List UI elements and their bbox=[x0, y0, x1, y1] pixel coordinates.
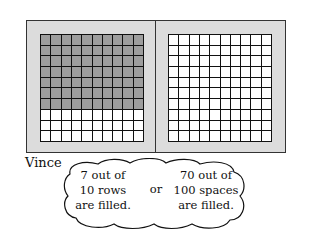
grid-cell bbox=[251, 78, 260, 88]
grid-cell bbox=[103, 67, 112, 77]
left-panel bbox=[26, 20, 156, 153]
grid-cell bbox=[231, 88, 240, 98]
grid-cell bbox=[210, 46, 219, 56]
grid-cell bbox=[241, 35, 250, 45]
grid-cell bbox=[200, 131, 209, 141]
right-panel bbox=[155, 20, 286, 153]
grid-cell bbox=[82, 99, 91, 109]
grid-cell bbox=[123, 67, 132, 77]
right-statement: 70 out of 100 spaces are filled. bbox=[170, 168, 242, 213]
left-hundred-grid bbox=[40, 34, 144, 142]
grid-cell bbox=[113, 35, 122, 45]
grid-cell bbox=[190, 121, 199, 131]
grid-cell bbox=[51, 78, 60, 88]
grid-cell bbox=[262, 110, 271, 120]
grid-cell bbox=[123, 88, 132, 98]
grid-cell bbox=[251, 88, 260, 98]
grid-cell bbox=[251, 56, 260, 66]
grid-cell bbox=[179, 110, 188, 120]
grid-cell bbox=[134, 131, 143, 141]
grid-cell bbox=[169, 110, 178, 120]
grid-cell bbox=[231, 67, 240, 77]
grid-cell bbox=[103, 99, 112, 109]
grid-cell bbox=[41, 67, 50, 77]
grid-cell bbox=[200, 121, 209, 131]
grid-cell bbox=[103, 88, 112, 98]
grid-cell bbox=[190, 78, 199, 88]
grid-cell bbox=[200, 110, 209, 120]
grid-cell bbox=[82, 110, 91, 120]
grid-cell bbox=[169, 99, 178, 109]
grid-cell bbox=[221, 88, 230, 98]
grid-cell bbox=[72, 78, 81, 88]
left-line-1: 7 out of bbox=[70, 168, 136, 183]
grid-cell bbox=[221, 35, 230, 45]
grid-cell bbox=[134, 46, 143, 56]
grid-cell bbox=[134, 56, 143, 66]
grid-cell bbox=[93, 121, 102, 131]
grid-cell bbox=[41, 78, 50, 88]
grid-cell bbox=[93, 67, 102, 77]
grid-cell bbox=[200, 46, 209, 56]
grid-cell bbox=[51, 99, 60, 109]
grid-cell bbox=[241, 131, 250, 141]
grid-cell bbox=[62, 131, 71, 141]
grid-cell bbox=[221, 46, 230, 56]
grid-cell bbox=[210, 56, 219, 66]
grid-cell bbox=[134, 88, 143, 98]
grid-cell bbox=[251, 99, 260, 109]
grid-cell bbox=[262, 78, 271, 88]
grid-cell bbox=[190, 88, 199, 98]
grid-cell bbox=[62, 56, 71, 66]
grid-cell bbox=[179, 131, 188, 141]
grid-cell bbox=[179, 56, 188, 66]
grid-cell bbox=[72, 121, 81, 131]
grid-cell bbox=[123, 131, 132, 141]
right-line-2: 100 spaces bbox=[170, 183, 242, 198]
grid-cell bbox=[241, 46, 250, 56]
left-statement: 7 out of 10 rows are filled. bbox=[70, 168, 136, 213]
grid-cell bbox=[72, 110, 81, 120]
grid-cell bbox=[93, 88, 102, 98]
grid-cell bbox=[231, 110, 240, 120]
grid-cell bbox=[231, 121, 240, 131]
grid-cell bbox=[169, 56, 178, 66]
grid-cell bbox=[134, 78, 143, 88]
grid-cell bbox=[221, 78, 230, 88]
grid-cell bbox=[82, 88, 91, 98]
grid-cell bbox=[190, 67, 199, 77]
grid-cell bbox=[82, 46, 91, 56]
grid-cell bbox=[262, 35, 271, 45]
grid-cell bbox=[134, 35, 143, 45]
grid-cell bbox=[113, 78, 122, 88]
grid-cell bbox=[262, 131, 271, 141]
grid-cell bbox=[113, 46, 122, 56]
grid-cell bbox=[241, 67, 250, 77]
grid-cell bbox=[169, 35, 178, 45]
grid-cell bbox=[251, 121, 260, 131]
grid-cell bbox=[123, 78, 132, 88]
grid-cell bbox=[190, 46, 199, 56]
right-hundred-grid bbox=[168, 34, 272, 142]
grid-cell bbox=[41, 88, 50, 98]
grid-cell bbox=[241, 99, 250, 109]
grid-cell bbox=[51, 131, 60, 141]
grid-cell bbox=[113, 67, 122, 77]
grid-cell bbox=[241, 88, 250, 98]
grid-cell bbox=[51, 121, 60, 131]
grid-cell bbox=[241, 121, 250, 131]
grid-cell bbox=[221, 131, 230, 141]
grid-cell bbox=[231, 99, 240, 109]
grid-cell bbox=[51, 110, 60, 120]
left-line-3: are filled. bbox=[70, 198, 136, 213]
grid-cell bbox=[103, 35, 112, 45]
grid-cell bbox=[262, 88, 271, 98]
grid-cell bbox=[82, 67, 91, 77]
grid-cell bbox=[93, 78, 102, 88]
grid-cell bbox=[169, 88, 178, 98]
grid-cell bbox=[123, 110, 132, 120]
grid-cell bbox=[134, 121, 143, 131]
grid-cell bbox=[134, 67, 143, 77]
grid-cell bbox=[200, 35, 209, 45]
grid-cell bbox=[62, 78, 71, 88]
